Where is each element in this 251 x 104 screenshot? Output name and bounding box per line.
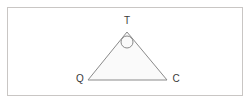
geometry-diagram: T Q C: [0, 0, 251, 104]
vertex-label-q: Q: [76, 73, 84, 84]
figure-canvas: T Q C: [0, 0, 251, 104]
vertex-label-t: T: [124, 15, 130, 26]
vertex-label-c: C: [172, 73, 179, 84]
